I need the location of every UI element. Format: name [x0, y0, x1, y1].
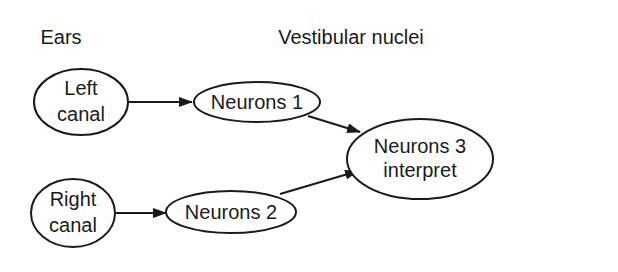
node-neurons-3: Neurons 3 interpret [347, 119, 493, 199]
right-canal-line2: canal [49, 214, 97, 236]
node-neurons-1: Neurons 1 [194, 82, 320, 122]
right-canal-line1: Right [50, 188, 97, 210]
left-canal-line2: canal [57, 103, 105, 125]
neurons1-label: Neurons 1 [211, 91, 303, 113]
heading-ears: Ears [40, 26, 81, 48]
neurons3-line2: interpret [383, 159, 457, 181]
heading-vestibular-nuclei: Vestibular nuclei [278, 26, 424, 48]
node-neurons-2: Neurons 2 [166, 191, 296, 233]
edge-neurons2-to-neurons3 [280, 171, 358, 194]
vestibular-pathway-diagram: Ears Vestibular nuclei Left canal Neuron… [0, 0, 618, 272]
node-left-canal: Left canal [34, 69, 128, 135]
left-canal-line1: Left [64, 77, 98, 99]
neurons2-label: Neurons 2 [185, 201, 277, 223]
neurons3-line1: Neurons 3 [374, 135, 466, 157]
edge-neurons1-to-neurons3 [308, 116, 360, 132]
node-right-canal: Right canal [31, 179, 115, 247]
